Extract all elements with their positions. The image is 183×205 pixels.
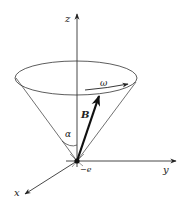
charge-label: −e (80, 165, 92, 174)
omega-label: ω (100, 78, 108, 88)
alpha-label: α (65, 129, 71, 139)
b-vector-label: B (80, 109, 89, 120)
cone-left-edge (16, 78, 77, 161)
b-vector (77, 96, 99, 161)
z-axis-label: z (64, 13, 71, 24)
precession-diagram: z y x B ω α −e (0, 0, 183, 205)
x-axis-label: x (14, 187, 20, 198)
cone-right-edge (77, 82, 136, 161)
charge-dot (74, 158, 79, 163)
cone-rim (15, 61, 137, 95)
x-axis (25, 161, 77, 194)
y-axis-label: y (162, 164, 169, 175)
